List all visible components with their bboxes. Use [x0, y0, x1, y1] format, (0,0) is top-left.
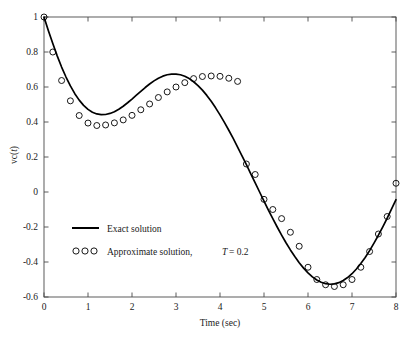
legend-sample-period-symbol: T — [222, 247, 228, 257]
y-tick-label: 0.8 — [26, 47, 38, 57]
figure-container: 012345678 10.80.60.40.20-0.2-0.4-0.6 Exa… — [0, 0, 418, 343]
y-tick-label: 0.2 — [26, 152, 38, 162]
legend-label-approximate-solution: Approximate solution, — [107, 247, 193, 257]
y-tick-label: 0 — [33, 187, 38, 197]
y-tick-label: 1 — [33, 12, 38, 22]
x-tick-label: 8 — [394, 302, 399, 312]
x-tick-label: 7 — [350, 302, 355, 312]
x-tick-label: 3 — [174, 302, 179, 312]
x-axis-label: Time (sec) — [200, 318, 241, 329]
x-tick-label: 2 — [130, 302, 135, 312]
y-tick-label: 0.4 — [26, 117, 38, 127]
chart-canvas: 012345678 10.80.60.40.20-0.2-0.4-0.6 Exa… — [0, 0, 418, 343]
figure-background — [0, 0, 418, 343]
legend-label-exact-solution: Exact solution — [107, 224, 162, 234]
x-tick-label: 0 — [42, 302, 47, 312]
x-tick-label: 6 — [306, 302, 311, 312]
y-axis-label-suffix: ) — [9, 146, 20, 149]
y-tick-label: -0.2 — [23, 222, 38, 232]
x-tick-label: 5 — [262, 302, 267, 312]
legend-sample-period-value: = 0.2 — [229, 247, 249, 257]
svg-text:vc(t): vc(t) — [9, 146, 20, 164]
y-tick-label: 0.6 — [26, 82, 38, 92]
x-tick-label: 4 — [218, 302, 223, 312]
y-axis-label-prefix: vc( — [9, 152, 20, 164]
x-tick-label: 1 — [86, 302, 91, 312]
y-axis-label: vc(t) — [9, 146, 20, 164]
y-tick-label: -0.4 — [23, 257, 38, 267]
y-axis-tick-labels: 10.80.60.40.20-0.2-0.4-0.6 — [23, 12, 38, 302]
y-tick-label: -0.6 — [23, 292, 38, 302]
